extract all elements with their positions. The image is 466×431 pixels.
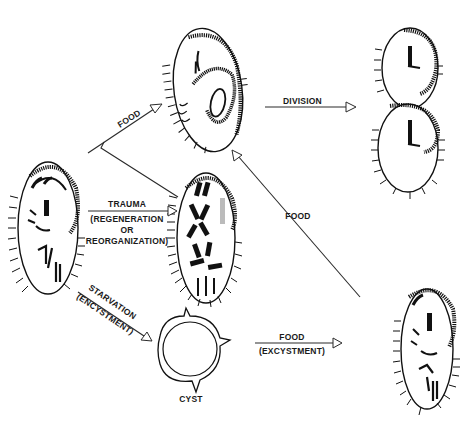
division-label: DIVISION [283,96,322,106]
or-label: OR [120,225,133,235]
food-label-top: FOOD [116,107,143,129]
excystment-label: (EXCYSTMENT) [259,346,325,356]
arrow-food-return [232,150,360,297]
dividing-cells [371,28,445,199]
cyst-label: CYST [179,394,203,404]
regenerating-cell [167,173,242,307]
food-label-return: FOOD [285,211,310,221]
start-cell [8,162,85,294]
regeneration-label: (REGENERATION [90,214,163,224]
fed-cell [157,23,256,157]
food-excystment-label: FOOD [279,332,304,342]
trauma-label: TRAUMA [108,199,146,209]
excysted-cell [393,289,460,415]
life-cycle-diagram: CYST FOOD DIVISION T [0,0,466,431]
cyst [158,308,230,392]
reorganization-label: REORGANIZATION) [86,236,169,246]
